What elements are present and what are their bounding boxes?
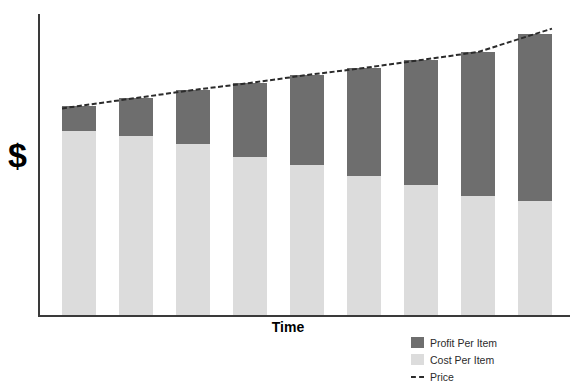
legend-item-1[interactable]: Profit Per Item [411,335,497,350]
bar-segment-cost-4 [233,157,267,315]
bar-segment-profit-8 [461,52,495,196]
bar-segment-cost-1 [62,131,96,315]
bar-segment-cost-6 [347,176,381,315]
bar-segment-profit-1 [62,106,96,131]
bar-stack-9 [518,34,552,315]
bar-segment-profit-4 [233,83,267,157]
bar-stack-4 [233,83,267,315]
bar-segment-cost-9 [518,201,552,315]
bar-segment-profit-2 [119,98,153,136]
price-line-swatch [411,371,424,382]
bar-segment-cost-8 [461,196,495,315]
legend-label-2: Cost Per Item [430,354,494,366]
bar-stack-8 [461,52,495,315]
bar-stack-3 [176,90,210,315]
bar-stack-5 [290,75,324,315]
bar-segment-profit-9 [518,34,552,201]
cost-swatch [411,354,424,365]
legend-item-2[interactable]: Cost Per Item [411,352,497,367]
bars-layer [0,0,580,388]
bar-stack-2 [119,98,153,315]
legend-label-1: Profit Per Item [430,337,497,349]
bar-stack-6 [347,68,381,315]
bar-segment-cost-5 [290,165,324,315]
bar-segment-profit-3 [176,90,210,144]
bar-segment-cost-7 [404,185,438,315]
bar-stack-7 [404,60,438,315]
chart-container: $ Time Profit Per ItemCost Per ItemPrice [0,0,580,388]
bar-segment-cost-3 [176,144,210,315]
bar-segment-profit-5 [290,75,324,165]
bar-segment-profit-7 [404,60,438,185]
legend-item-3[interactable]: Price [411,369,497,384]
profit-swatch [411,337,424,348]
chart-legend: Profit Per ItemCost Per ItemPrice [411,335,497,386]
bar-segment-cost-2 [119,136,153,315]
bar-stack-1 [62,106,96,315]
legend-label-3: Price [430,371,454,383]
bar-segment-profit-6 [347,68,381,176]
